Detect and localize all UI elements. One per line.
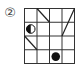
diagonal-line	[25, 36, 38, 50]
black-circle	[51, 52, 60, 61]
diagonal-line	[37, 9, 50, 23]
grid-lines	[25, 9, 75, 64]
puzzle-grid	[0, 0, 78, 70]
half-black-circle	[26, 25, 35, 34]
